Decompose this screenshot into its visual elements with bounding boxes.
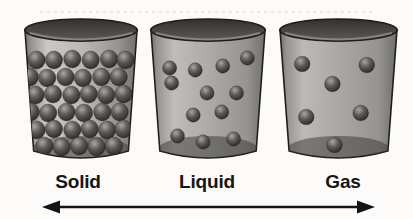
states-of-matter-diagram: Solid Liquid Gas xyxy=(0,0,413,219)
cup-gas xyxy=(278,13,399,165)
particle xyxy=(359,57,375,73)
particle xyxy=(110,68,127,86)
particle xyxy=(115,85,132,103)
particle xyxy=(28,121,45,139)
particle xyxy=(45,51,62,69)
particle xyxy=(117,51,134,69)
particle xyxy=(325,76,341,92)
particle xyxy=(240,51,254,65)
particle xyxy=(353,105,369,121)
particle xyxy=(39,104,56,122)
particle xyxy=(93,68,110,86)
particle xyxy=(44,85,61,103)
liquid-cup-graphic xyxy=(149,13,267,165)
particle xyxy=(165,76,179,90)
particle xyxy=(63,86,80,104)
particle xyxy=(28,51,45,69)
particle xyxy=(80,85,97,103)
particle xyxy=(58,103,75,121)
particle xyxy=(298,109,314,125)
particle xyxy=(81,120,98,138)
particle xyxy=(45,120,62,138)
particle xyxy=(327,137,343,153)
particle xyxy=(23,68,38,86)
continuum-arrow-graphic xyxy=(0,196,413,218)
particle xyxy=(163,61,177,75)
cup-rim xyxy=(25,19,137,41)
cup-rim xyxy=(151,19,265,41)
arrowhead-right xyxy=(357,201,375,214)
particle xyxy=(111,103,128,121)
particle xyxy=(170,129,184,143)
cup-solid xyxy=(23,13,139,165)
label-gas: Gas xyxy=(325,171,360,193)
particle xyxy=(64,121,81,139)
label-liquid: Liquid xyxy=(179,171,235,193)
gas-cup-graphic xyxy=(278,13,399,165)
particle xyxy=(98,121,115,139)
particle xyxy=(186,108,200,122)
particle xyxy=(74,69,91,87)
particle xyxy=(97,86,114,104)
particle xyxy=(53,138,70,156)
particle xyxy=(38,69,55,87)
particle xyxy=(215,105,229,119)
particle xyxy=(294,56,310,72)
particle xyxy=(88,138,105,156)
particle xyxy=(94,103,111,121)
particle xyxy=(200,86,214,100)
particle xyxy=(105,137,122,155)
particle xyxy=(226,132,240,146)
particle xyxy=(188,63,202,77)
arrowhead-left xyxy=(42,201,60,214)
cup-rim xyxy=(280,19,397,41)
particle xyxy=(82,51,99,69)
solid-cup-graphic xyxy=(23,13,139,165)
continuum-arrow xyxy=(0,196,413,218)
particle xyxy=(229,86,243,100)
cup-liquid xyxy=(149,13,267,165)
particle xyxy=(216,59,230,73)
particle xyxy=(64,50,81,68)
particle xyxy=(70,137,87,155)
particle xyxy=(100,50,117,68)
particle xyxy=(57,68,74,86)
particle xyxy=(75,104,92,122)
label-solid: Solid xyxy=(55,171,100,193)
particle xyxy=(196,135,210,149)
